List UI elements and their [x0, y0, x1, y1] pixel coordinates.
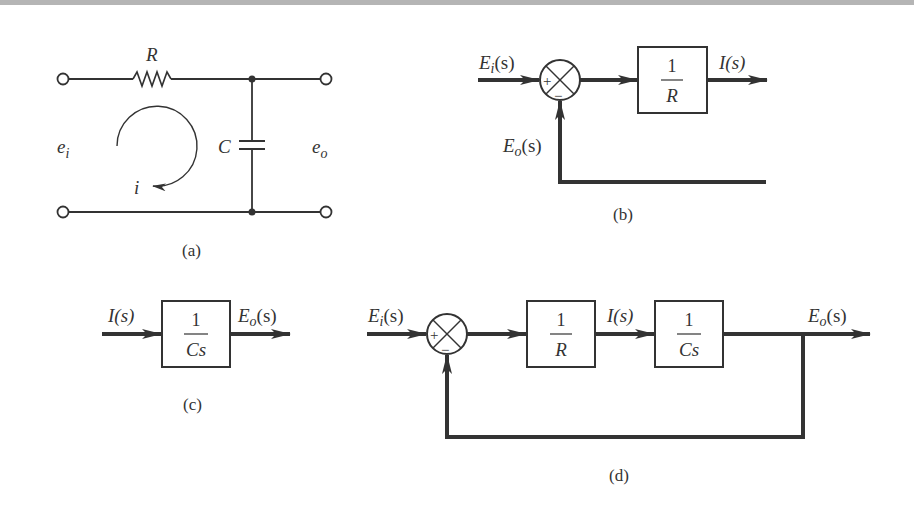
circuit-wires	[69, 72, 320, 212]
terminal-in-top	[58, 74, 69, 85]
terminal-out-bottom	[321, 207, 332, 218]
output-label: Eo(s)	[237, 305, 277, 329]
block-denominator: R	[665, 85, 678, 106]
feedback-label: Eo(s)	[502, 135, 542, 159]
input-label: Ei(s)	[367, 305, 404, 329]
output-label: Eo(s)	[807, 305, 847, 329]
terminal-out-top	[321, 74, 332, 85]
current-loop-arrow-icon	[117, 106, 197, 186]
output-label: I(s)	[718, 52, 745, 74]
junction-dot-bottom	[249, 209, 256, 216]
resistor-label: R	[145, 44, 158, 65]
panel-a-circuit: R C ei eo i (a)	[57, 44, 332, 260]
terminal-in-bottom	[58, 207, 69, 218]
caption-d: (d)	[609, 466, 629, 485]
output-voltage-label: eo	[312, 136, 327, 161]
terminals	[58, 74, 332, 218]
block2-denominator: Cs	[679, 339, 699, 360]
caption-b: (b)	[613, 205, 633, 224]
capacitor-label: C	[218, 136, 231, 157]
plus-sign: +	[543, 73, 551, 89]
figure: R C ei eo i (a) + − 1 R Ei(s) I(s) Eo(s)…	[0, 0, 914, 507]
block-numerator: 1	[668, 56, 677, 76]
junction-dot-top	[249, 76, 256, 83]
summing-junction: + −	[427, 314, 467, 358]
caption-a: (a)	[182, 241, 201, 260]
panel-d-block-diagram: + − 1 R 1 Cs Ei(s) I(s) Eo(s) (d)	[367, 301, 870, 485]
feedback-path	[447, 334, 803, 437]
input-voltage-label: ei	[57, 136, 69, 161]
panel-b-block-diagram: + − 1 R Ei(s) I(s) Eo(s) (b)	[478, 47, 767, 224]
block-denominator: Cs	[186, 339, 206, 360]
panel-c-block-diagram: 1 Cs I(s) Eo(s) (c)	[102, 301, 290, 414]
intermediate-label: I(s)	[606, 305, 633, 327]
input-label: I(s)	[107, 305, 134, 327]
caption-c: (c)	[183, 395, 202, 414]
summing-junction: + −	[540, 60, 580, 104]
block-numerator: 1	[192, 310, 201, 330]
block1-numerator: 1	[557, 310, 566, 330]
block1-denominator: R	[554, 339, 567, 360]
plus-sign: +	[430, 327, 438, 343]
input-label: Ei(s)	[478, 52, 515, 76]
block2-numerator: 1	[685, 310, 694, 330]
current-label: i	[134, 177, 139, 198]
